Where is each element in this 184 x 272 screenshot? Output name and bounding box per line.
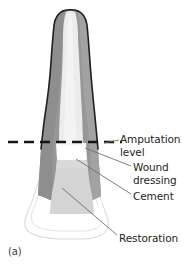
- label-amputation-level: Amputation level: [120, 133, 180, 158]
- figure-panel-a: Amputation level Wound dressing Cement R…: [0, 0, 184, 272]
- cement-block: [50, 160, 94, 214]
- panel-label: (a): [8, 246, 22, 259]
- wound-dressing-band: [56, 143, 87, 160]
- label-wound-dressing: Wound dressing: [133, 161, 177, 186]
- label-restoration: Restoration: [119, 232, 178, 245]
- label-cement: Cement: [133, 190, 174, 203]
